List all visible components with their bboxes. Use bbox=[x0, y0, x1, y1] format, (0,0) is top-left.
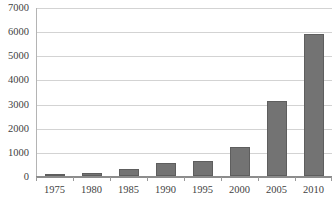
y-axis-tick-label: 1000 bbox=[8, 148, 29, 159]
bar[interactable] bbox=[119, 169, 139, 176]
y-axis: 01000200030004000500060007000 bbox=[0, 0, 33, 210]
y-axis-tick-label: 3000 bbox=[8, 99, 29, 110]
bar[interactable] bbox=[45, 174, 65, 176]
x-axis-tick-mark bbox=[73, 177, 74, 181]
x-axis: 19751980198519901995200020052010 bbox=[36, 177, 332, 210]
y-axis-tick-label: 0 bbox=[24, 172, 29, 183]
bar[interactable] bbox=[304, 34, 324, 176]
x-axis-tick-label: 1990 bbox=[155, 185, 176, 196]
bar-slot bbox=[147, 8, 184, 176]
plot-area bbox=[36, 8, 332, 177]
x-axis-tick-mark bbox=[331, 177, 332, 181]
bar-slot bbox=[295, 8, 332, 176]
x-axis-tick-mark bbox=[295, 177, 296, 181]
bar-slot bbox=[73, 8, 110, 176]
x-axis-tick-label: 2010 bbox=[303, 185, 324, 196]
x-axis-tick-label: 2005 bbox=[266, 185, 287, 196]
y-axis-tick-label: 5000 bbox=[8, 51, 29, 62]
x-axis-tick-label: 1975 bbox=[44, 185, 65, 196]
x-axis-tick-mark bbox=[184, 177, 185, 181]
x-axis-tick-label: 1980 bbox=[81, 185, 102, 196]
bar[interactable] bbox=[82, 173, 102, 176]
x-axis-tick-mark bbox=[36, 177, 37, 181]
y-axis-tick-label: 6000 bbox=[8, 27, 29, 38]
x-axis-tick-label: 2000 bbox=[229, 185, 250, 196]
bar-slot bbox=[36, 8, 73, 176]
x-axis-tick-mark bbox=[221, 177, 222, 181]
y-axis-tick-label: 2000 bbox=[8, 123, 29, 134]
y-axis-tick-label: 4000 bbox=[8, 75, 29, 86]
bar[interactable] bbox=[230, 147, 250, 176]
x-axis-tick-mark bbox=[147, 177, 148, 181]
bar-slot bbox=[184, 8, 221, 176]
x-axis-tick-mark bbox=[110, 177, 111, 181]
bar[interactable] bbox=[193, 161, 213, 176]
y-axis-tick-label: 7000 bbox=[8, 3, 29, 14]
bar-chart: 01000200030004000500060007000 1975198019… bbox=[0, 0, 335, 210]
bar-slot bbox=[221, 8, 258, 176]
x-axis-tick-label: 1995 bbox=[192, 185, 213, 196]
x-axis-tick-mark bbox=[258, 177, 259, 181]
x-axis-tick-label: 1985 bbox=[118, 185, 139, 196]
bar[interactable] bbox=[156, 163, 176, 176]
bar-slot bbox=[110, 8, 147, 176]
bar-slot bbox=[258, 8, 295, 176]
bars-series bbox=[36, 8, 332, 177]
bar[interactable] bbox=[267, 101, 287, 176]
